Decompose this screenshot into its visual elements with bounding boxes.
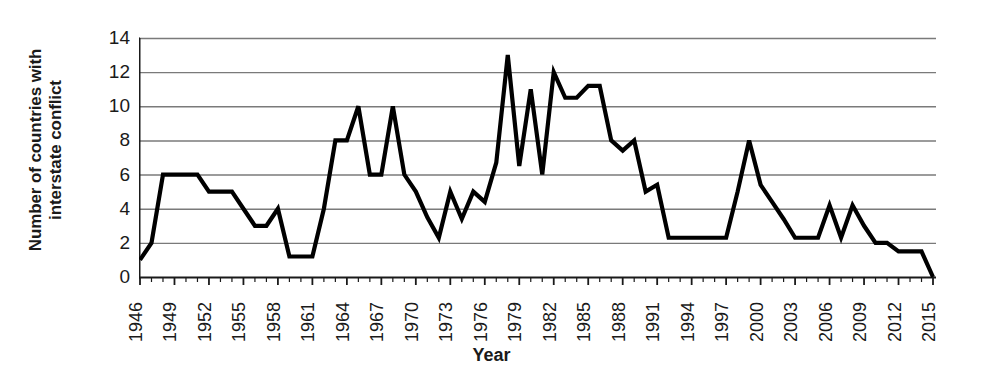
x-tick-label: 1979 — [505, 302, 526, 342]
y-tick-label: 4 — [96, 198, 130, 220]
x-tick-label: 2012 — [885, 302, 906, 342]
x-tick-label: 1949 — [160, 302, 181, 342]
x-tick-label: 2015 — [919, 302, 940, 342]
x-axis-tick-labels: 1946194919521955195819611964196719701973… — [139, 282, 936, 342]
x-tick-label: 1961 — [298, 302, 319, 342]
x-tick-label: 1955 — [229, 302, 250, 342]
y-tick-label: 6 — [96, 164, 130, 186]
x-tick-label: 1991 — [643, 302, 664, 342]
x-tick-label: 1988 — [609, 302, 630, 342]
y-axis-title-container: Number of countries with interstate conf… — [0, 0, 92, 300]
y-tick-label: 2 — [96, 232, 130, 254]
y-tick-label: 8 — [96, 129, 130, 151]
y-axis-title: Number of countries with interstate conf… — [26, 49, 66, 252]
x-tick-label: 1973 — [436, 302, 457, 342]
y-tick-label: 14 — [96, 27, 130, 49]
x-tick-label: 1946 — [126, 302, 147, 342]
x-axis-title: Year — [0, 345, 983, 366]
x-tick-label: 1976 — [471, 302, 492, 342]
x-tick-label: 1982 — [540, 302, 561, 342]
x-tick-label: 1997 — [712, 302, 733, 342]
x-tick-label: 1967 — [367, 302, 388, 342]
y-tick-label: 0 — [96, 266, 130, 288]
x-tick-label: 1958 — [264, 302, 285, 342]
x-tick-label: 2009 — [850, 302, 871, 342]
x-tick-label: 1964 — [333, 302, 354, 342]
gridlines — [139, 39, 936, 278]
x-tick-label: 2003 — [781, 302, 802, 342]
y-axis-tick-labels: 02468101214 — [96, 0, 130, 382]
y-tick-label: 10 — [96, 95, 130, 117]
x-tick-label: 1994 — [678, 302, 699, 342]
y-tick-label: 12 — [96, 61, 130, 83]
x-tick-label: 2000 — [747, 302, 768, 342]
y-axis-title-line-1: Number of countries with — [26, 49, 46, 252]
x-tick-label: 2006 — [816, 302, 837, 342]
x-tick-label: 1952 — [195, 302, 216, 342]
x-tick-label: 1970 — [402, 302, 423, 342]
x-tick-label: 1985 — [574, 302, 595, 342]
y-axis-title-line-2: interstate conflict — [46, 49, 66, 252]
interstate-conflict-line-chart: Number of countries with interstate conf… — [0, 0, 983, 382]
